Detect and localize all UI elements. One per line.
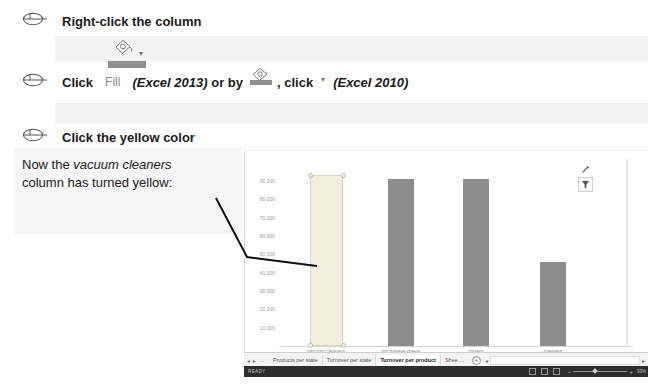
excel-chart-screenshot: vacuum cleanersmicrowave ovensmixerstoas… <box>244 150 648 353</box>
y-axis-tick: 90,000 <box>247 178 275 184</box>
sheet-nav-left-icon[interactable]: ◂ <box>247 357 250 364</box>
tab-scroll-left-icon[interactable]: ◂ <box>485 357 488 364</box>
shaded-strip <box>55 103 648 123</box>
chart-column-microwave-ovens[interactable] <box>388 179 414 346</box>
note-product-name: vacuum cleaners <box>73 157 171 172</box>
note-prefix: Now the <box>22 157 73 172</box>
book-page: Right-click the column ▾ Click Fill (Exc… <box>0 0 648 390</box>
y-axis-tick: 70,000 <box>247 215 275 221</box>
step-2-row: Click Fill (Excel 2013) or by , click ▾ … <box>0 72 408 92</box>
excel-2013-label: (Excel 2013) <box>132 75 207 90</box>
y-axis-tick: 80,000 <box>247 196 275 202</box>
fill-button-label[interactable]: Fill <box>105 75 120 89</box>
fill-button-icon[interactable]: ▾ <box>108 38 146 68</box>
chart-column-toasters[interactable] <box>540 262 566 346</box>
ready-indicator: READY <box>248 369 266 374</box>
or-by-label: or by <box>208 75 243 90</box>
y-axis-tick: 50,000 <box>247 251 275 257</box>
vertical-scrollbar[interactable] <box>626 159 628 347</box>
selection-handle[interactable] <box>341 173 346 178</box>
step-1-row: Right-click the column <box>0 12 201 30</box>
zoom-slider-track[interactable] <box>573 371 627 372</box>
comma-click-label: , click <box>277 75 313 90</box>
selection-handle[interactable] <box>308 173 313 178</box>
tab-overflow[interactable]: Shee ... <box>441 355 468 365</box>
step-1-label: Right-click the column <box>62 14 201 29</box>
step-3-label: Click the yellow color <box>62 130 195 145</box>
tab-turnover-per-state[interactable]: Turnover per state <box>323 355 377 365</box>
x-axis-line <box>281 346 633 347</box>
fill-color-bar <box>108 61 146 68</box>
y-axis-tick: 30,000 <box>247 288 275 294</box>
page-layout-view-icon[interactable] <box>541 368 548 375</box>
y-axis-tick: 40,000 <box>247 270 275 276</box>
paint-bucket-icon <box>111 42 139 59</box>
mouse-click-icon <box>22 128 48 146</box>
tab-scroll-right-icon[interactable]: ▸ <box>642 357 645 364</box>
step-2-click-label: Click <box>62 75 93 90</box>
sheet-nav-ellipsis[interactable]: ... <box>259 357 264 363</box>
y-axis-tick: 10,000 <box>247 325 275 331</box>
sheet-tab-bar: ◂ ▸ ... Products per state Turnover per … <box>244 352 648 367</box>
status-bar: READY − + 93% <box>244 366 648 377</box>
fill-button-icon-small[interactable] <box>247 66 273 90</box>
y-axis-tick: - <box>247 343 275 349</box>
new-sheet-icon[interactable]: + <box>472 356 481 365</box>
mouse-click-icon <box>22 12 48 30</box>
note-line2: column has turned yellow: <box>22 175 172 190</box>
dropdown-arrow-icon[interactable]: ▾ <box>321 75 325 84</box>
mouse-click-icon <box>22 73 48 91</box>
zoom-slider-thumb[interactable] <box>593 368 599 374</box>
tab-scrollbar-track[interactable] <box>490 356 640 365</box>
zoom-out-icon[interactable]: − <box>568 369 572 375</box>
page-break-view-icon[interactable] <box>553 368 560 375</box>
step-3-row: Click the yellow color <box>0 128 195 146</box>
chart-styles-icon[interactable] <box>579 163 592 176</box>
zoom-in-icon[interactable]: + <box>629 369 633 375</box>
tab-products-per-state[interactable]: Products per state <box>269 355 323 365</box>
y-axis-tick: 60,000 <box>247 233 275 239</box>
note-text: Now the vacuum cleaners column has turne… <box>14 148 242 234</box>
normal-view-icon[interactable] <box>529 368 536 375</box>
selection-handle[interactable] <box>308 343 313 348</box>
dropdown-arrow-icon[interactable]: ▾ <box>139 49 143 58</box>
selection-handle[interactable] <box>341 343 346 348</box>
chart-column-mixers[interactable] <box>463 179 489 346</box>
tab-turnover-per-product[interactable]: Turnover per product <box>376 355 441 365</box>
zoom-percentage[interactable]: 93% <box>637 369 646 374</box>
excel-2010-label: (Excel 2010) <box>333 75 408 90</box>
chart-filters-icon[interactable] <box>578 177 593 192</box>
sheet-nav-right-icon[interactable]: ▸ <box>253 357 256 364</box>
y-axis-tick: 20,000 <box>247 306 275 312</box>
chart-column-vacuum-cleaners[interactable] <box>310 175 343 346</box>
